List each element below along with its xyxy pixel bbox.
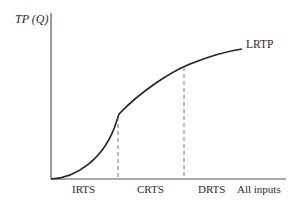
region-label-irts: IRTS [72, 183, 95, 195]
y-axis-label: TP (Q) [15, 12, 48, 26]
lrtp-diagram: TP (Q) LRTP IRTS CRTS DRTS All inputs [0, 0, 301, 212]
x-axis-label: All inputs [237, 183, 281, 195]
region-label-drts: DRTS [198, 183, 225, 195]
curve-label: LRTP [246, 38, 273, 50]
lrtp-curve [51, 49, 242, 179]
region-label-crts: CRTS [137, 183, 164, 195]
